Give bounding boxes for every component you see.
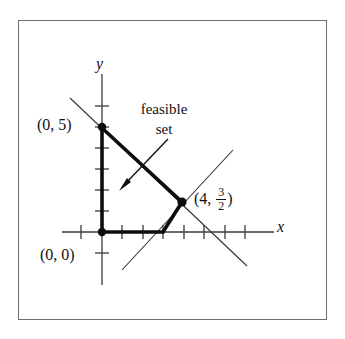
boundary-segment-lower bbox=[163, 202, 182, 232]
axis-label-x-text: x bbox=[277, 218, 284, 235]
vertex-label-close-paren: ) bbox=[227, 191, 232, 207]
axis-label-y-text: y bbox=[96, 55, 103, 72]
vertex-dot-optimum bbox=[177, 197, 186, 206]
plot-canvas bbox=[0, 0, 345, 339]
vertex-dot-y-intercept bbox=[98, 123, 106, 131]
vertex-dot-origin bbox=[98, 228, 106, 236]
label-vertex-4-3-over-2: (4, 3 2 ) bbox=[194, 186, 233, 212]
axis-label-y: y bbox=[96, 56, 103, 72]
axis-label-x: x bbox=[277, 219, 284, 235]
annotation-feasible-set-line2: set bbox=[156, 121, 173, 137]
vertex-label-fraction: 3 2 bbox=[216, 186, 226, 212]
figure-root: (0, 5) (0, 0) y x feasible set (4, 3 2 ) bbox=[0, 0, 345, 339]
feasible-region-boundary bbox=[102, 128, 182, 232]
label-point-0-0: (0, 0) bbox=[40, 247, 75, 263]
annotation-feasible-set-line1: feasible bbox=[141, 101, 188, 117]
vertex-label-x: 4, bbox=[199, 191, 211, 207]
annotation-feasible-set: feasible set bbox=[125, 99, 203, 140]
fraction-denominator: 2 bbox=[216, 200, 226, 213]
label-point-0-5: (0, 5) bbox=[37, 117, 72, 133]
fraction-numerator: 3 bbox=[216, 186, 226, 199]
